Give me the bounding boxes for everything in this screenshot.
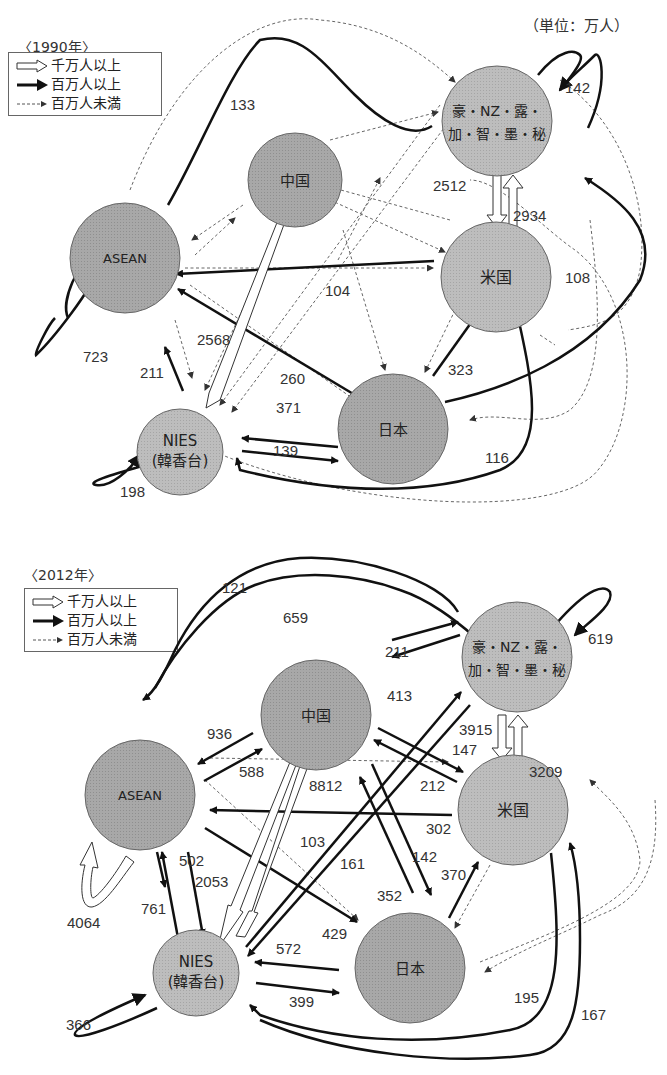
svg-text:豪・NZ・露・: 豪・NZ・露・ [472, 639, 562, 655]
svg-text:723: 723 [83, 348, 108, 365]
svg-text:588: 588 [239, 763, 264, 780]
svg-text:2934: 2934 [513, 207, 546, 224]
svg-text:103: 103 [300, 833, 325, 850]
svg-text:ASEAN: ASEAN [118, 788, 162, 803]
svg-text:161: 161 [340, 855, 365, 872]
svg-text:中国: 中国 [301, 707, 331, 725]
svg-text:ASEAN: ASEAN [103, 251, 147, 266]
nies-to-china-hollow-arrow [236, 766, 308, 937]
svg-text:413: 413 [387, 687, 412, 704]
svg-text:NIES: NIES [163, 432, 198, 450]
svg-text:米国: 米国 [497, 801, 529, 820]
svg-text:429: 429 [322, 925, 347, 942]
svg-text:147: 147 [452, 741, 477, 758]
svg-text:NIES: NIES [179, 953, 214, 971]
svg-text:198: 198 [120, 483, 145, 500]
node-japan-2012: 日本 [355, 913, 465, 1023]
svg-text:3209: 3209 [529, 763, 562, 780]
usa-to-oceania-hollow-arrow [508, 715, 528, 760]
svg-text:116: 116 [485, 449, 509, 466]
svg-text:399: 399 [289, 993, 314, 1010]
node-japan-1990: 日本 [338, 374, 448, 484]
svg-text:212: 212 [420, 777, 445, 794]
svg-text:302: 302 [426, 820, 451, 837]
node-usa-1990: 米国 [441, 222, 551, 332]
svg-text:371: 371 [276, 399, 301, 416]
svg-text:日本: 日本 [395, 960, 425, 978]
svg-text:2512: 2512 [433, 177, 466, 194]
node-nies-2012: NIES (韓香台) [153, 930, 239, 1016]
svg-text:502: 502 [179, 852, 204, 869]
svg-text:761: 761 [141, 900, 166, 917]
china-to-nies-hollow-arrow [218, 762, 296, 948]
svg-text:3915: 3915 [459, 721, 492, 738]
flow-diagram-1990: 豪・NZ・露・ 加・智・墨・秘 中国 ASEAN 米国 NIES (韓香台) 日… [0, 0, 667, 520]
svg-text:142: 142 [412, 848, 437, 865]
svg-text:323: 323 [448, 361, 473, 378]
svg-text:121: 121 [222, 579, 247, 596]
svg-text:211: 211 [140, 364, 164, 381]
node-asean-1990: ASEAN [70, 203, 180, 313]
svg-text:米国: 米国 [480, 268, 512, 287]
svg-text:(韓香台): (韓香台) [152, 452, 209, 470]
oceania-to-usa-hollow-arrow [492, 715, 512, 760]
oceania-to-usa-hollow-arrow [487, 175, 507, 228]
svg-text:108: 108 [565, 269, 590, 286]
nies-self-loop-arrow [93, 455, 142, 485]
svg-text:104: 104 [325, 282, 350, 299]
svg-text:619: 619 [588, 630, 613, 647]
svg-text:2568: 2568 [197, 331, 230, 348]
svg-text:142: 142 [565, 79, 590, 96]
china-to-nies-hollow-arrow [206, 205, 290, 408]
svg-text:167: 167 [581, 1006, 606, 1023]
svg-text:370: 370 [441, 866, 466, 883]
node-china-1990: 中国 [248, 133, 342, 227]
flow-diagram-2012: 豪・NZ・露・ 加・智・墨・秘 中国 ASEAN 米国 NIES (韓香台) 日… [0, 540, 667, 1075]
svg-text:2053: 2053 [195, 873, 228, 890]
svg-text:豪・NZ・露・: 豪・NZ・露・ [452, 103, 542, 119]
svg-text:659: 659 [283, 609, 308, 626]
svg-text:中国: 中国 [280, 172, 310, 190]
node-asean-2012: ASEAN [85, 740, 195, 850]
svg-text:195: 195 [514, 989, 539, 1006]
node-oceania-1990: 豪・NZ・露・ 加・智・墨・秘 [442, 66, 552, 176]
svg-text:936: 936 [207, 725, 232, 742]
node-oceania-2012: 豪・NZ・露・ 加・智・墨・秘 [462, 602, 572, 712]
svg-text:8812: 8812 [309, 777, 342, 794]
svg-text:4064: 4064 [67, 914, 100, 931]
node-nies-1990: NIES (韓香台) [137, 409, 223, 495]
svg-text:(韓香台): (韓香台) [168, 973, 225, 991]
asean-self-hollow-arrow [80, 842, 134, 907]
svg-text:139: 139 [273, 442, 298, 459]
node-china-2012: 中国 [261, 660, 371, 770]
svg-text:日本: 日本 [378, 421, 408, 439]
svg-text:211: 211 [385, 643, 409, 660]
svg-text:260: 260 [280, 370, 305, 387]
svg-text:352: 352 [377, 887, 402, 904]
svg-text:366: 366 [66, 1016, 91, 1033]
svg-text:加・智・墨・秘: 加・智・墨・秘 [448, 126, 546, 142]
svg-text:133: 133 [230, 96, 255, 113]
svg-text:加・智・墨・秘: 加・智・墨・秘 [468, 662, 566, 678]
svg-text:572: 572 [276, 940, 301, 957]
